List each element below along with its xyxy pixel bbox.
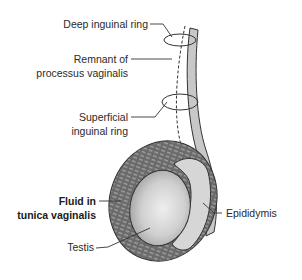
label-deep-inguinal-ring: Deep inguinal ring <box>63 18 148 31</box>
hydrocele-diagram <box>0 0 302 280</box>
leader-deep-ring <box>150 24 172 37</box>
label-remnant-line1: Remnant of <box>74 53 128 66</box>
label-testis: Testis <box>67 241 94 254</box>
label-epididymis: Epididymis <box>226 207 277 220</box>
label-remnant-line2: processus vaginalis <box>36 67 128 80</box>
label-superficial-line2: inguinal ring <box>71 125 128 138</box>
leader-superficial-ring <box>131 102 167 117</box>
label-fluid-line1: Fluid in <box>59 195 96 208</box>
label-fluid-line2: tunica vaginalis <box>17 209 96 222</box>
label-superficial-line1: Superficial <box>79 111 128 124</box>
